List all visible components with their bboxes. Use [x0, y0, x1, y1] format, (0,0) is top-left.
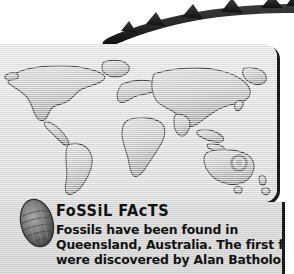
- fossil-facts-body: Fossils have been found in Queensland, A…: [56, 222, 286, 268]
- fossil-facts-heading: FoSSiL FAcTS: [56, 203, 286, 218]
- fact-line-3: were discovered by Alan Batholomai: [56, 252, 286, 267]
- fact-line-2: Queensland, Australia. The first fossils: [56, 237, 286, 252]
- fossil-specimen-icon: [14, 193, 60, 253]
- fact-line-1: Fossils have been found in: [56, 222, 286, 237]
- fossil-facts-text-block: FoSSiL FAcTS Fossils have been found in …: [56, 203, 286, 267]
- world-map-panel: [0, 44, 277, 202]
- world-map-icon: [0, 44, 277, 202]
- fossil-facts-page: FoSSiL FAcTS Fossils have been found in …: [0, 0, 294, 274]
- right-edge-margin: [285, 202, 294, 274]
